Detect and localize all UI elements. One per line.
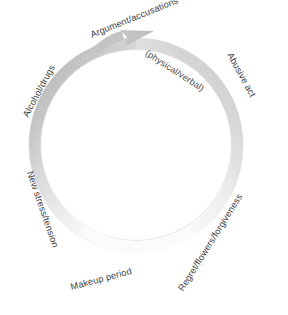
cycle-diagram: Argument/accusations (physical/verbal) A… (0, 0, 288, 315)
ring-band-bottom (80, 225, 196, 253)
cycle-ring-graphic (0, 0, 288, 315)
